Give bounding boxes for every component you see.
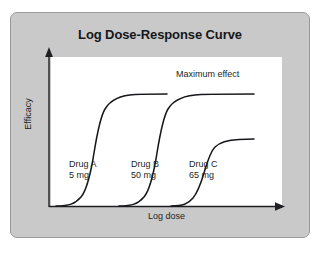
curve-label-drug-b: Drug B 50 mg: [131, 159, 159, 181]
curve-label-drug-c-dose: 65 mg: [189, 170, 218, 181]
annotation-maximum-effect: Maximum effect: [176, 69, 239, 79]
curve-label-drug-b-dose: 50 mg: [131, 170, 159, 181]
curve-drug-b: [119, 94, 254, 206]
x-axis: [49, 202, 285, 210]
curve-drug-a: [56, 94, 167, 206]
curve-label-drug-b-name: Drug B: [131, 159, 159, 170]
curve-label-drug-c: Drug C 65 mg: [189, 159, 218, 181]
figure-root: Log Dose-Response Curve Efficacy Log d: [0, 0, 325, 254]
plot-svg: [11, 13, 311, 239]
curve-label-drug-a-dose: 5 mg: [69, 170, 97, 181]
figure-panel: Log Dose-Response Curve Efficacy Log d: [10, 12, 310, 238]
x-axis-arrow-icon: [275, 202, 285, 210]
curve-label-drug-a: Drug A 5 mg: [69, 159, 97, 181]
y-axis-arrow-icon: [45, 47, 53, 57]
curve-label-drug-c-name: Drug C: [189, 159, 218, 170]
y-axis: [45, 47, 53, 207]
x-axis-label: Log dose: [51, 211, 282, 221]
curve-label-drug-a-name: Drug A: [69, 159, 97, 170]
y-axis-label: Efficacy: [23, 84, 33, 144]
